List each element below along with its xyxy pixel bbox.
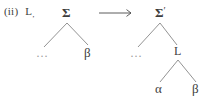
transformation-arrow-icon <box>99 10 131 17</box>
left-tree-edge-to-ellipsis <box>44 23 67 47</box>
right-tree-L-label: L <box>174 44 181 58</box>
case-marker: (ii) <box>4 5 18 17</box>
right-tree-edge-to-ellipsis <box>138 23 160 47</box>
left-tree-ellipsis-leaf: … <box>36 47 49 59</box>
right-tree-root-label: Σ <box>155 5 164 20</box>
right-tree-ellipsis-label: … <box>130 46 143 60</box>
left-tree-ellipsis-label: … <box>36 46 49 60</box>
right-tree-edge-L-to-alpha <box>160 60 178 82</box>
right-tree-root-prime: ′ <box>164 5 166 16</box>
right-tree-beta-leaf: β <box>192 82 199 95</box>
case-subscript: , <box>32 10 34 19</box>
right-tree-edge-to-L <box>160 23 177 45</box>
right-tree-edge-L-to-beta <box>178 60 196 82</box>
right-tree-root-node: Σ′ <box>155 6 166 19</box>
right-tree-internal-node-L: L <box>174 45 181 57</box>
left-tree-root-node: Σ <box>62 6 71 19</box>
left-tree-edges <box>44 23 88 47</box>
left-tree-root-label: Σ <box>62 5 71 20</box>
right-tree-ellipsis-leaf: … <box>130 47 143 59</box>
tree-transformation-figure: (ii) L, Σ … β Σ′ … L α β <box>0 0 208 100</box>
case-label: (ii) L, <box>4 6 35 18</box>
right-tree-alpha-leaf: α <box>155 82 162 95</box>
right-tree-edges <box>138 23 196 82</box>
left-tree-edge-to-beta <box>67 23 88 45</box>
left-tree-beta-label: β <box>84 45 91 60</box>
right-tree-beta-label: β <box>192 81 199 96</box>
left-tree-beta-leaf: β <box>84 46 91 59</box>
right-tree-alpha-label: α <box>155 81 162 96</box>
